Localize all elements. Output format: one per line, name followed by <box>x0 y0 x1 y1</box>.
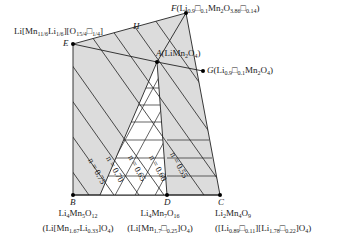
label-G: G <box>207 65 214 75</box>
label-F-formula: F(Li0.9□0.1Mn2O3.86□0.14) <box>171 4 259 14</box>
label-E: E <box>63 39 69 48</box>
label-B-formula: Li4Mn5O12 (Li[Mn1.67Li0.33]O4) <box>43 207 114 235</box>
label-E-formula: Li[Mn11/6Li1/6][O15/4□1/4] <box>14 27 103 37</box>
phase-diagram: n = 0.75 n = 0.70 n = 0.65 n = 0.60 n = … <box>0 0 360 235</box>
label-H: H <box>133 22 140 31</box>
label-D-formula: Li4Mn7O16 (Li[Mn1.7□0.25]O4) <box>127 207 192 235</box>
label-G-formula: G(Li0.9□0.1Mn2O4) <box>207 66 273 76</box>
label-C: C <box>218 198 224 207</box>
label-A: A <box>156 48 162 58</box>
label-C-formula: Li2Mn4O9 ([Li0.89□0.11][Li1.78□0.22]O4) <box>215 207 311 235</box>
label-A-formula: A(LiMn2O4) <box>156 49 201 59</box>
label-F: F <box>171 3 177 13</box>
label-B: B <box>70 198 76 207</box>
label-D: D <box>164 198 171 207</box>
